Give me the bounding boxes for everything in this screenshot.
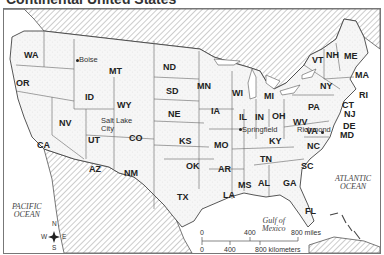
state-label-nd: ND bbox=[163, 63, 176, 72]
map-title: Continental United States bbox=[6, 0, 176, 7]
bahamas-islands bbox=[330, 213, 360, 239]
compass-south: S bbox=[52, 245, 56, 252]
water-body-label: PACIFICOCEAN bbox=[12, 203, 42, 220]
scale-bar bbox=[202, 237, 298, 245]
state-label-mo: MO bbox=[214, 141, 229, 150]
state-label-sd: SD bbox=[166, 87, 179, 96]
state-label-sc: SC bbox=[301, 162, 314, 171]
scale-miles-800: 800 miles bbox=[291, 229, 321, 236]
state-label-wi: WI bbox=[232, 89, 243, 98]
city-label: City bbox=[101, 125, 114, 133]
state-label-me: ME bbox=[344, 52, 358, 61]
state-label-nh: NH bbox=[326, 51, 339, 60]
scale-km-800: 800 kilometers bbox=[255, 246, 301, 253]
state-label-ks: KS bbox=[179, 137, 192, 146]
scale-km-0: 0 bbox=[200, 246, 204, 253]
scale-miles-400: 400 bbox=[244, 229, 256, 236]
state-label-vt: VT bbox=[312, 56, 324, 65]
state-label-ok: OK bbox=[186, 162, 200, 171]
state-label-mt: MT bbox=[109, 67, 122, 76]
state-label-la: LA bbox=[223, 191, 235, 200]
city-label: Springfield bbox=[242, 126, 277, 134]
state-label-ri: RI bbox=[359, 91, 368, 100]
state-label-co: CO bbox=[129, 134, 143, 143]
state-label-wy: WY bbox=[117, 101, 132, 110]
state-label-nc: NC bbox=[307, 142, 320, 151]
water-body-label: ATLANTICOCEAN bbox=[335, 175, 371, 192]
state-label-ia: IA bbox=[211, 107, 220, 116]
state-label-ut: UT bbox=[88, 136, 100, 145]
state-label-ar: AR bbox=[218, 165, 231, 174]
state-label-md: MD bbox=[340, 131, 354, 140]
compass-rose bbox=[48, 231, 60, 243]
water-body-name-line2: Mexico bbox=[262, 225, 286, 233]
state-label-ky: KY bbox=[269, 137, 282, 146]
state-label-tn: TN bbox=[260, 155, 272, 164]
state-label-mn: MN bbox=[197, 82, 211, 91]
state-label-tx: TX bbox=[177, 193, 189, 202]
water-body-name-line2: OCEAN bbox=[12, 211, 42, 219]
city-label: Richmond bbox=[297, 126, 331, 134]
state-label-ms: MS bbox=[238, 181, 252, 190]
state-label-nm: NM bbox=[124, 169, 138, 178]
state-label-nv: NV bbox=[59, 119, 72, 128]
state-label-id: ID bbox=[85, 93, 94, 102]
state-label-or: OR bbox=[16, 79, 30, 88]
state-label-in: IN bbox=[255, 113, 264, 122]
city-dot-icon bbox=[76, 59, 79, 62]
scale-km-400: 400 bbox=[224, 246, 236, 253]
compass-east: E bbox=[62, 234, 66, 241]
water-body-name-line2: OCEAN bbox=[335, 183, 371, 191]
city-dot-icon bbox=[321, 131, 324, 134]
state-label-ma: MA bbox=[355, 71, 369, 80]
state-label-ga: GA bbox=[283, 179, 297, 188]
state-label-az: AZ bbox=[89, 165, 101, 174]
state-label-ca: CA bbox=[37, 141, 50, 150]
state-label-il: IL bbox=[239, 113, 247, 122]
scale-miles-0: 0 bbox=[200, 229, 204, 236]
city-dot-icon bbox=[239, 128, 242, 131]
water-body-label: Gulf ofMexico bbox=[262, 217, 286, 234]
cuba-region bbox=[309, 237, 380, 253]
compass-west: W bbox=[41, 234, 47, 241]
state-label-pa: PA bbox=[308, 103, 320, 112]
city-label: Boise bbox=[79, 56, 98, 64]
state-label-ny: NY bbox=[320, 82, 333, 91]
map-frame: WAORCANVIDMTWYUTCOAZNMNDSDNEKSOKTXMNIAMO… bbox=[3, 8, 381, 254]
state-label-al: AL bbox=[258, 179, 270, 188]
state-label-mi: MI bbox=[264, 92, 274, 101]
state-label-nj: NJ bbox=[344, 110, 356, 119]
state-label-wa: WA bbox=[24, 51, 39, 60]
state-label-oh: OH bbox=[272, 112, 286, 121]
state-label-fl: FL bbox=[305, 207, 316, 216]
state-label-ne: NE bbox=[168, 110, 181, 119]
compass-north: N bbox=[52, 221, 57, 228]
